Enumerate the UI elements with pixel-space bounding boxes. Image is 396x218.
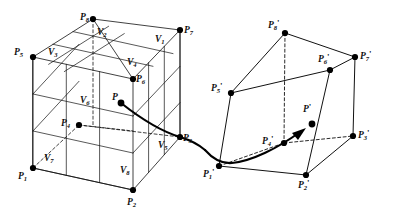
vertex-dot-p8-prime (282, 30, 288, 36)
label-v5: V5 (158, 141, 168, 151)
label-p4-prime: P4' (262, 137, 274, 147)
label-p1: P1 (18, 172, 27, 182)
label-p7-prime: P7' (360, 52, 372, 62)
right-hex-outline (219, 33, 355, 175)
vertex-dot-p (118, 100, 125, 107)
label-p1-prime: P1' (203, 170, 215, 180)
left-cube-front-grid (33, 64, 133, 182)
label-p5-prime: P5' (211, 84, 223, 94)
label-p3: P3 (183, 134, 192, 144)
vertex-dot-p-prime (309, 121, 316, 128)
left-cube-right-grid (133, 46, 180, 172)
vertex-dot-p2 (130, 187, 136, 193)
vertex-dot-p1-prime (216, 163, 222, 169)
label-p-prime: P' (303, 105, 311, 115)
label-p6: P6 (136, 75, 145, 85)
label-p8-prime: P8' (268, 21, 280, 31)
label-v3: V3 (48, 48, 58, 58)
diagram-vector-layer (0, 0, 396, 218)
label-v8: V8 (120, 166, 130, 176)
label-p5: P5 (14, 48, 23, 58)
vertex-dot-p4-prime (281, 140, 287, 146)
label-p3-prime: P3' (358, 131, 370, 141)
vertex-dot-p8 (90, 16, 96, 22)
label-p4: P4 (61, 119, 70, 129)
diagram-canvas: P1 P2 P3 P4 P5 P6 P7 P8 P V1 V2 V3 V4 V5… (0, 0, 396, 218)
vertex-dot-p5 (30, 54, 36, 60)
label-v2: V2 (97, 28, 107, 38)
vertex-dot-p1 (30, 165, 36, 171)
vertex-dot-p7 (177, 27, 183, 33)
label-v1: V1 (155, 35, 165, 45)
label-p: P (112, 93, 118, 103)
label-p2: P2 (127, 198, 136, 208)
label-p7: P7 (184, 26, 193, 36)
mapping-curve-right (205, 132, 300, 163)
label-v4: V4 (127, 58, 137, 68)
vertex-dot-p3-prime (350, 133, 356, 139)
vertex-dot-p5-prime (228, 90, 234, 96)
vertex-dot-p7-prime (352, 54, 358, 60)
label-v7: V7 (44, 154, 54, 164)
mapping-arrowhead (292, 128, 306, 140)
right-hex-hidden-edges (219, 33, 353, 166)
label-v6: V6 (80, 96, 90, 106)
label-p8: P8 (80, 13, 89, 23)
label-p2-prime: P2' (298, 181, 310, 191)
vertex-dot-p6-prime (327, 67, 333, 73)
vertex-dot-p4 (76, 122, 82, 128)
label-p6-prime: P6' (318, 55, 330, 65)
